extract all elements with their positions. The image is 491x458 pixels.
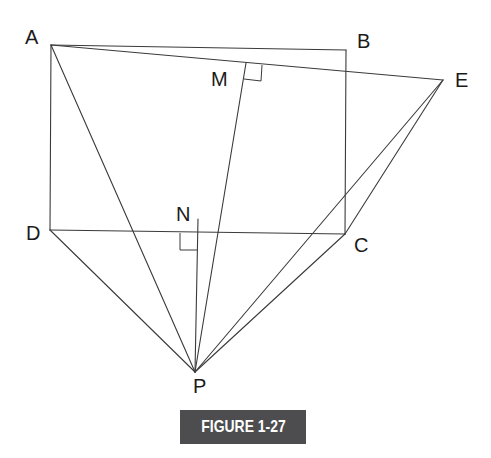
label-E: E: [455, 69, 468, 91]
label-P: P: [193, 375, 206, 397]
segment-BC: [345, 50, 346, 234]
segment-AE: [51, 45, 443, 80]
label-N: N: [176, 203, 190, 225]
geometry-figure: A B E M N D C P: [0, 0, 491, 458]
segment-CE: [345, 80, 443, 234]
right-angle-marker-M: [244, 65, 262, 81]
right-angle-marker-N: [180, 233, 197, 250]
label-B: B: [357, 30, 370, 52]
figure-caption: FIGURE 1-27: [180, 410, 306, 444]
segment-EP: [195, 80, 443, 372]
segment-CP: [195, 234, 345, 372]
label-C: C: [354, 234, 368, 256]
label-D: D: [26, 222, 40, 244]
label-A: A: [25, 26, 39, 48]
segment-AP: [51, 45, 195, 372]
segment-DA: [50, 45, 51, 230]
figure-caption-text: FIGURE 1-27: [201, 417, 285, 437]
segment-DP: [50, 230, 195, 372]
segment-NP: [195, 219, 198, 372]
segment-MP: [195, 63, 246, 372]
label-M: M: [211, 68, 228, 90]
